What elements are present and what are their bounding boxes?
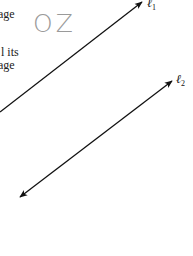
line-l1 [0,2,142,112]
label-l1: ℓ1 [147,0,156,12]
parallel-lines-figure: ℓ1 ℓ2 [0,0,193,256]
line-l2 [20,81,172,197]
label-l2: ℓ2 [176,72,185,88]
